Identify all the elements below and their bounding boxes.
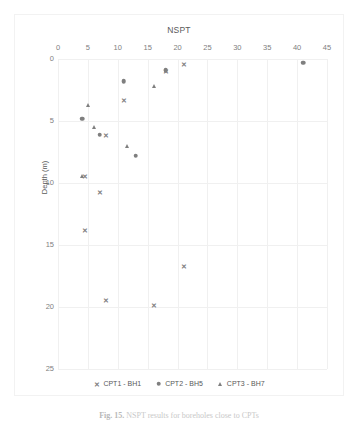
x-tick-label: 15	[136, 43, 160, 52]
gridline-vertical	[148, 59, 149, 369]
scatter-chart: NSPT Depth (m) 051015202530354045 051015…	[14, 14, 344, 396]
y-tick-label: 20	[32, 302, 54, 311]
gridline-vertical	[118, 59, 119, 369]
gridline-vertical	[267, 59, 268, 369]
x-tick-label: 0	[46, 43, 70, 52]
gridline-vertical	[58, 59, 59, 369]
legend-item[interactable]: ✕CPT1 - BH1	[93, 380, 141, 387]
x-tick-label: 10	[106, 43, 130, 52]
y-tick-label: 25	[32, 364, 54, 373]
gridline-vertical	[207, 59, 208, 369]
caption-prefix: Fig. 15.	[99, 411, 124, 420]
chart-title: NSPT	[15, 25, 343, 35]
gridline-vertical	[327, 59, 328, 369]
legend-label: CPT1 - BH1	[103, 380, 141, 387]
figure-container: NSPT Depth (m) 051015202530354045 051015…	[0, 0, 358, 422]
gridline-horizontal	[58, 183, 327, 184]
gridline-vertical	[237, 59, 238, 369]
gridline-horizontal	[58, 307, 327, 308]
gridline-vertical	[178, 59, 179, 369]
gridline-horizontal	[58, 121, 327, 122]
gridline-horizontal	[58, 59, 327, 60]
x-tick-label: 20	[166, 43, 190, 52]
legend-item[interactable]: CPT2 - BH5	[155, 380, 203, 387]
x-tick-label: 45	[315, 43, 339, 52]
figure-caption: Fig. 15. NSPT results for boreholes clos…	[0, 411, 358, 422]
cross-marker-icon: ✕	[93, 380, 100, 387]
circle-marker-icon	[155, 380, 162, 387]
x-tick-label: 25	[195, 43, 219, 52]
caption-text: NSPT results for boreholes close to CPTs	[126, 411, 259, 420]
gridline-horizontal	[58, 369, 327, 370]
legend-label: CPT3 - BH7	[227, 380, 265, 387]
x-tick-label: 30	[225, 43, 249, 52]
x-tick-label: 35	[255, 43, 279, 52]
chart-legend: ✕CPT1 - BH1CPT2 - BH5CPT3 - BH7	[15, 380, 343, 387]
legend-item[interactable]: CPT3 - BH7	[217, 380, 265, 387]
y-tick-label: 10	[32, 178, 54, 187]
x-tick-label: 5	[76, 43, 100, 52]
x-tick-label: 40	[285, 43, 309, 52]
y-tick-label: 5	[32, 116, 54, 125]
y-tick-label: 0	[32, 54, 54, 63]
gridline-horizontal	[58, 245, 327, 246]
triangle-marker-icon	[217, 380, 224, 387]
gridline-vertical	[297, 59, 298, 369]
legend-label: CPT2 - BH5	[165, 380, 203, 387]
plot-area: 051015202530354045 0510152025 ✕✕✕✕✕✕✕✕✕✕	[58, 59, 327, 369]
y-tick-label: 15	[32, 240, 54, 249]
